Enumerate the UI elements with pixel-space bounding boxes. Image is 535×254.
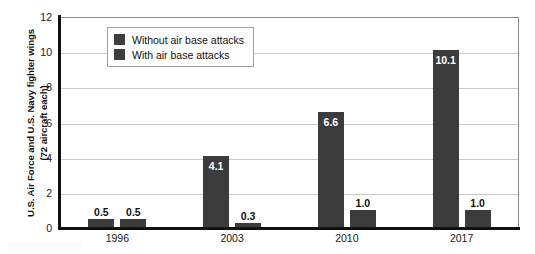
bar-value-label: 1.0 (344, 198, 382, 209)
bar-value-label: 0.5 (114, 207, 152, 218)
x-axis-spine (58, 227, 520, 230)
legend-label-series-2: With air base attacks (132, 49, 229, 61)
bar-value-label: 1.0 (459, 198, 497, 209)
legend-swatch-icon-series-2 (114, 49, 125, 60)
bar-value-label: 4.1 (197, 161, 235, 172)
legend-swatch-icon-series-1 (114, 34, 125, 45)
scan-artifact (8, 243, 82, 249)
x-axis-tick-label: 1996 (77, 232, 157, 244)
y-axis-tick-label: 10 (28, 47, 52, 57)
y-axis-tick-labels: 024681012 (28, 17, 56, 228)
bar (350, 210, 376, 228)
legend-item-without-air-base-attacks: Without air base attacks (114, 32, 244, 47)
bar-value-label: 0.3 (229, 211, 267, 222)
y-axis-spine (58, 15, 61, 230)
bar-value-label: 10.1 (427, 55, 465, 66)
y-axis-tick-label: 4 (28, 153, 52, 163)
y-axis-tick-label: 0 (28, 223, 52, 233)
x-axis-tick-label: 2017 (422, 232, 502, 244)
x-axis-tick-label: 2003 (192, 232, 272, 244)
bar (318, 112, 344, 228)
y-axis-tick-label: 12 (28, 12, 52, 22)
bar-chart-figure: U.S. Air Force and U.S. Navy fighter win… (0, 0, 535, 254)
chart-legend: Without air base attacks With air base a… (107, 27, 254, 67)
legend-item-with-air-base-attacks: With air base attacks (114, 47, 244, 62)
x-axis-tick-label: 2010 (307, 232, 387, 244)
legend-label-series-1: Without air base attacks (132, 34, 244, 46)
y-axis-tick-label: 6 (28, 118, 52, 128)
y-axis-tick-label: 2 (28, 188, 52, 198)
y-axis-tick-label: 8 (28, 82, 52, 92)
bar (465, 210, 491, 228)
bar-value-label: 6.6 (312, 117, 350, 128)
bar (433, 50, 459, 228)
